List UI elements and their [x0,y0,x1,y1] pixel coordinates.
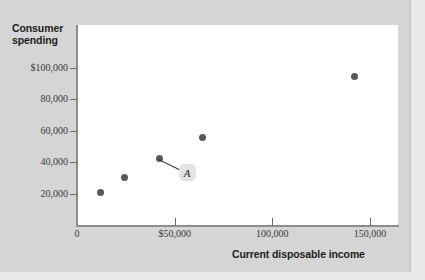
y-axis-line [76,25,78,227]
x-axis-tick-label: 100,000 [256,228,289,239]
y-axis-tick-label: 40,000 [41,156,69,167]
y-axis-tick-label: 60,000 [41,125,69,136]
y-axis-title-line1: Consumer [12,22,72,34]
x-axis-tick [370,218,371,226]
y-axis-tick [70,68,77,69]
y-axis-tick [70,162,77,163]
y-axis-tick-label: 80,000 [41,93,69,104]
y-axis-tick-label: $100,000 [31,62,69,73]
x-axis-line [76,225,399,227]
y-axis-tick [70,99,77,100]
x-axis-tick-label: $50,000 [158,228,191,239]
data-point [351,73,358,80]
x-axis-tick-label: 150,000 [354,228,387,239]
y-axis-tick [70,131,77,132]
data-point [199,134,206,141]
annotation-label-a: A [179,164,196,181]
y-axis-title-line2: spending [12,34,72,46]
page-margin-bottom [0,272,425,280]
y-axis-tick [70,194,77,195]
y-axis-title: Consumer spending [12,22,72,46]
x-axis-title: Current disposable income [232,248,365,260]
y-axis-tick-label: 20,000 [41,188,69,199]
page-margin-right [410,0,425,280]
x-axis-tick [175,218,176,226]
plot-area [77,25,398,226]
chart-screenshot: Consumer spending Current disposable inc… [0,0,425,280]
x-axis-tick [272,218,273,226]
x-axis-tick-label: 0 [75,228,80,239]
